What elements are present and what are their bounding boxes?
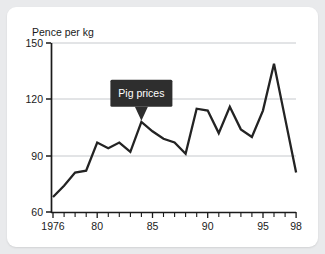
y-tick-labels: 150 120 90 60: [25, 37, 43, 218]
data-series-line: [53, 64, 296, 197]
x-tick-label-1995: 95: [257, 220, 269, 232]
x-tick-label-1998: 98: [290, 220, 302, 232]
x-tick-labels: 1976 80 85 90 95 98: [41, 220, 302, 232]
y-tick-label-90: 90: [31, 150, 43, 162]
chart-canvas: Pence per kg 150 120 90: [7, 7, 318, 247]
chart-card: Pence per kg 150 120 90: [7, 7, 318, 247]
pig-prices-line-chart: Pence per kg 150 120 90: [7, 7, 318, 247]
x-tick-label-1976: 1976: [41, 220, 65, 232]
y-tick-marks: [46, 43, 51, 212]
x-tick-label-1980: 80: [91, 220, 103, 232]
gridlines: [51, 43, 296, 156]
y-tick-label-60: 60: [31, 206, 43, 218]
x-tick-label-1985: 85: [147, 220, 159, 232]
y-tick-label-150: 150: [25, 37, 43, 49]
callout-pointer: [135, 107, 148, 121]
x-tick-label-1990: 90: [202, 220, 214, 232]
annotation-callout[interactable]: Pig prices: [110, 80, 172, 121]
callout-label: Pig prices: [118, 87, 164, 99]
y-tick-label-120: 120: [25, 93, 43, 105]
